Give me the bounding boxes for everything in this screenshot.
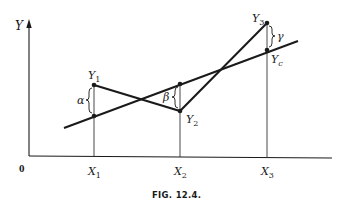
gamma-label: γ bbox=[277, 30, 284, 43]
point-y1-fitted bbox=[92, 114, 97, 119]
figure-caption: FIG. 12.4. bbox=[152, 190, 201, 200]
y-axis-label: Y bbox=[15, 19, 24, 33]
yc-label: Yc bbox=[271, 53, 283, 68]
y-axis-arrow-icon bbox=[26, 19, 31, 28]
point-y3 bbox=[265, 21, 270, 26]
point-y2-fitted bbox=[178, 82, 183, 87]
alpha-label: α bbox=[77, 94, 85, 107]
x2-label: X2 bbox=[173, 165, 187, 180]
y-axis bbox=[26, 19, 31, 156]
beta-label: β bbox=[162, 91, 169, 104]
y3-label: Y3 bbox=[252, 12, 264, 27]
observed-data-polyline bbox=[94, 23, 267, 111]
origin-label: 0 bbox=[19, 162, 25, 174]
gamma-brace-icon bbox=[269, 26, 275, 47]
x1-label: X1 bbox=[87, 165, 101, 180]
y2-label: Y2 bbox=[186, 113, 198, 128]
x-axis bbox=[29, 156, 332, 158]
y1-label: Y1 bbox=[88, 69, 100, 84]
point-yc bbox=[265, 48, 270, 53]
alpha-brace-icon bbox=[86, 88, 92, 113]
regression-diagram: Y 0 X1 X2 X3 Y1 Y2 Y3 Yc α β γ FIG. bbox=[0, 0, 345, 203]
point-y2 bbox=[178, 109, 183, 114]
beta-brace-icon bbox=[172, 87, 178, 108]
x3-label: X3 bbox=[260, 165, 274, 180]
